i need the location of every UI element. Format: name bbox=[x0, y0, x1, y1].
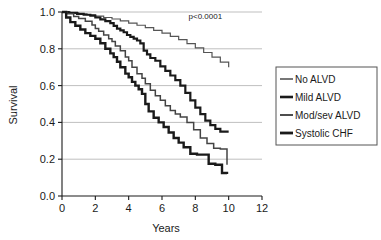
gridlines bbox=[62, 12, 262, 159]
x-tick-label: 8 bbox=[192, 202, 198, 214]
x-tick-label: 12 bbox=[256, 202, 268, 214]
y-tick-label: 0.8 bbox=[40, 43, 55, 55]
y-tick-label: 0.6 bbox=[40, 80, 55, 92]
x-tick-label: 4 bbox=[126, 202, 132, 214]
pvalue-label: p<0.0001 bbox=[189, 12, 223, 21]
x-tick-label: 6 bbox=[159, 202, 165, 214]
x-axis-ticks bbox=[62, 196, 262, 200]
series-line-mod-sev-alvd bbox=[62, 12, 227, 165]
x-axis-title: Years bbox=[152, 222, 180, 234]
series-curves bbox=[62, 12, 229, 174]
y-tick-label: 0.0 bbox=[40, 190, 55, 202]
x-tick-label: 0 bbox=[59, 202, 65, 214]
y-tick-labels: 0.00.20.40.60.81.0 bbox=[40, 6, 55, 202]
series-line-mild-alvd bbox=[62, 12, 229, 132]
x-tick-label: 10 bbox=[223, 202, 235, 214]
legend-label[interactable]: No ALVD bbox=[295, 74, 335, 85]
legend-box: No ALVDMild ALVDMod/sev ALVDSystolic CHF bbox=[276, 67, 377, 145]
y-axis-ticks bbox=[58, 12, 62, 196]
legend-label[interactable]: Systolic CHF bbox=[295, 128, 353, 139]
y-axis-title: Survival bbox=[7, 85, 19, 124]
survival-curve-figure: 0.00.20.40.60.81.0 024681012 p<0.0001 Su… bbox=[0, 0, 381, 240]
legend-label[interactable]: Mild ALVD bbox=[295, 92, 341, 103]
y-tick-label: 1.0 bbox=[40, 6, 55, 18]
y-tick-label: 0.4 bbox=[40, 116, 55, 128]
legend-label[interactable]: Mod/sev ALVD bbox=[295, 110, 360, 121]
x-tick-label: 2 bbox=[92, 202, 98, 214]
y-tick-label: 0.2 bbox=[40, 153, 55, 165]
x-tick-labels: 024681012 bbox=[59, 202, 268, 214]
series-line-systolic-chf bbox=[62, 12, 227, 174]
pvalue-annotation: p<0.0001 bbox=[189, 12, 223, 21]
chart-canvas: 0.00.20.40.60.81.0 024681012 p<0.0001 Su… bbox=[0, 0, 381, 240]
